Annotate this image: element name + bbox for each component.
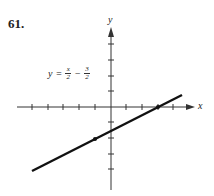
y-axis-label: y xyxy=(108,14,112,25)
x-axis-arrow-icon xyxy=(186,104,195,110)
coordinate-plane xyxy=(0,0,214,196)
x-axis-label: x xyxy=(198,100,202,111)
point-marker xyxy=(93,137,97,141)
point-marker xyxy=(156,105,160,109)
y-axis-arrow-icon xyxy=(108,27,114,37)
